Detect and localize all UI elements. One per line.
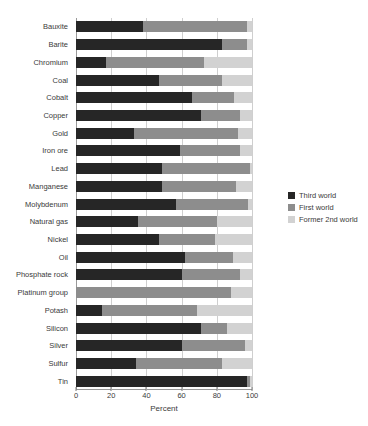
bar-segment [76,57,106,68]
category-label: Oil [59,253,68,262]
category-label: Tin [58,377,68,386]
x-tick-label: 60 [177,391,185,400]
category-label: Silver [49,341,68,350]
category-label: Coal [53,76,68,85]
bar-segment [159,234,215,245]
bar-row [76,39,252,50]
legend-item: First world [288,202,368,213]
bar-segment [222,358,252,369]
category-label: Platinum group [18,288,68,297]
bar-segment [76,145,180,156]
bar-segment [240,269,252,280]
bar-row [76,128,252,139]
category-label: Iron ore [42,146,68,155]
bar-segment [76,128,134,139]
bar-segment [234,92,252,103]
bar-segment [76,340,182,351]
bar-segment [76,323,201,334]
bar-segment [182,269,240,280]
bar-row [76,216,252,227]
bar-segment [247,21,252,32]
bar-segment [76,181,162,192]
bar-row [76,376,252,387]
legend-swatch-icon [288,216,295,223]
bar-segment [76,234,159,245]
bar-segment [162,181,236,192]
bar-rows [76,18,252,390]
bar-segment [76,75,159,86]
bar-segment [76,110,201,121]
bar-row [76,269,252,280]
bar-segment [215,234,252,245]
bar-segment [76,163,162,174]
bar-segment [162,163,250,174]
bar-segment [238,128,252,139]
x-tick-label: 40 [142,391,150,400]
category-label: Potash [45,306,68,315]
legend-label: Former 2nd world [299,215,358,224]
x-axis-ticks: 020406080100 [76,391,252,405]
stacked-bar-chart: BauxiteBariteChromiumCoalCobaltCopperGol… [0,0,368,426]
bar-segment [76,305,102,316]
category-label: Gold [52,129,68,138]
bar-segment [192,92,234,103]
bar-segment [233,252,252,263]
bar-segment [240,145,252,156]
bar-segment [201,323,227,334]
bar-segment [197,305,252,316]
bar-segment [250,163,252,174]
bar-segment [76,376,247,387]
x-tick-label: 0 [74,391,78,400]
bar-row [76,181,252,192]
category-label: Sulfur [48,359,68,368]
legend-item: Former 2nd world [288,214,368,225]
category-label: Natural gas [30,217,68,226]
bar-segment [76,21,143,32]
bar-segment [138,216,217,227]
category-label: Molybdenum [25,200,68,209]
bar-segment [231,287,252,298]
x-tick-label: 20 [107,391,115,400]
bar-row [76,323,252,334]
bar-segment [180,145,240,156]
category-label: Lead [51,164,68,173]
legend-label: First world [299,203,334,212]
bar-segment [159,75,222,86]
bar-segment [236,181,252,192]
category-label: Chromium [33,58,68,67]
bar-segment [227,323,252,334]
bar-segment [204,57,252,68]
bar-segment [106,57,205,68]
bar-segment [76,216,138,227]
category-label: Silicon [46,324,68,333]
bar-segment [248,199,252,210]
bar-segment [143,21,247,32]
bar-segment [250,376,252,387]
bar-segment [76,358,136,369]
bar-segment [217,216,252,227]
bar-segment [76,252,185,263]
bar-segment [136,358,222,369]
bar-segment [134,128,238,139]
legend-item: Third world [288,190,368,201]
chart-legend: Third worldFirst worldFormer 2nd world [288,190,368,226]
bar-row [76,287,252,298]
bar-row [76,199,252,210]
bar-segment [76,269,182,280]
legend-swatch-icon [288,204,295,211]
bar-row [76,340,252,351]
category-label: Bauxite [43,22,68,31]
category-axis-labels: BauxiteBariteChromiumCoalCobaltCopperGol… [0,18,72,390]
bar-segment [247,39,252,50]
bar-row [76,75,252,86]
bar-segment [245,340,252,351]
bar-segment [222,39,247,50]
bar-row [76,163,252,174]
bar-row [76,305,252,316]
gridline-100 [252,18,253,390]
bar-segment [76,199,176,210]
category-label: Copper [43,111,68,120]
x-axis-title: Percent [76,404,252,413]
x-tick-label: 100 [246,391,259,400]
bar-segment [102,305,197,316]
